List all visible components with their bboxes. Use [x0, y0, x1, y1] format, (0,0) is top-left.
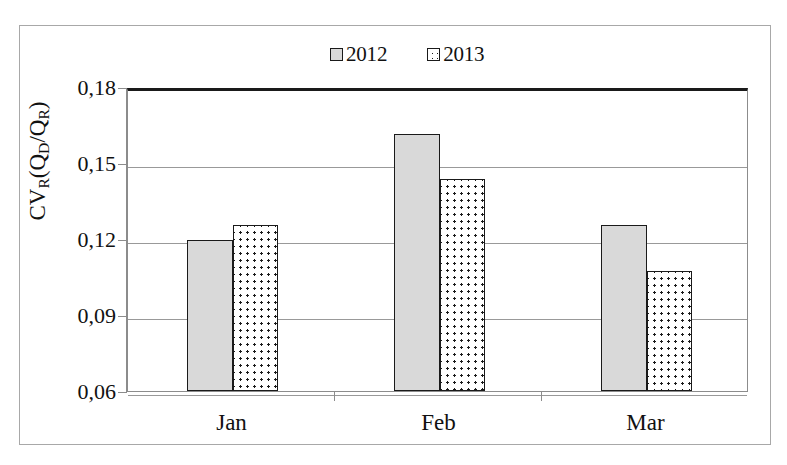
y-tick-label-0,12: 0,12: [54, 229, 116, 251]
y-tick-label-0,18: 0,18: [54, 77, 116, 99]
y-axis-title-close: ): [25, 101, 50, 109]
bar-jan-2012[interactable]: [187, 240, 233, 391]
legend-label-2012: 2012: [346, 44, 387, 65]
y-axis-title-slash: /Q: [25, 120, 50, 143]
y-axis-title-prefix: CV: [25, 189, 50, 221]
plot-area: [127, 88, 748, 392]
bar-mar-2012[interactable]: [601, 225, 647, 391]
y-tick-mark-0,15: [118, 164, 127, 165]
x-category-label-jan: Jan: [162, 410, 302, 435]
y-axis-title-open: (Q: [25, 154, 50, 178]
y-tick-mark-0,18: [118, 88, 127, 89]
x-tick-mark-2: [541, 392, 542, 401]
chart-figure: 2012 2013 CVR(QD/QR) 0,060,090,120,150,1…: [0, 0, 787, 465]
y-axis-title-sub-r1: R: [35, 178, 52, 188]
bar-feb-2012[interactable]: [394, 134, 440, 391]
y-axis-title-sub-d: D: [35, 143, 52, 154]
legend-swatch-2013-icon: [427, 48, 440, 61]
x-category-label-mar: Mar: [576, 410, 716, 435]
bar-mar-2013[interactable]: [647, 271, 693, 391]
y-tick-label-0,09: 0,09: [54, 305, 116, 327]
y-tick-label-0,06: 0,06: [54, 381, 116, 403]
x-category-label-feb: Feb: [369, 410, 509, 435]
bar-jan-2013[interactable]: [233, 225, 279, 391]
x-tick-mark-1: [334, 392, 335, 401]
y-axis-title: CVR(QD/QR): [25, 61, 51, 261]
legend-swatch-2012-icon: [330, 48, 343, 61]
bar-feb-2013[interactable]: [440, 179, 486, 391]
y-tick-mark-0,06: [118, 392, 127, 393]
y-tick-mark-0,12: [118, 240, 127, 241]
y-tick-label-0,15: 0,15: [54, 153, 116, 175]
y-tick-mark-0,09: [118, 316, 127, 317]
legend-label-2013: 2013: [443, 44, 484, 65]
gridline-0,06: [128, 395, 747, 396]
legend-entry-2012[interactable]: 2012: [330, 44, 387, 65]
legend-entry-2013[interactable]: 2013: [427, 44, 484, 65]
chart-legend: 2012 2013: [330, 40, 570, 68]
y-axis-title-sub-r2: R: [35, 109, 52, 119]
